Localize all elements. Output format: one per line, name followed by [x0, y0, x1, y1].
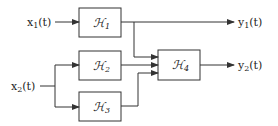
output-label-y1: y1(t) — [237, 16, 262, 30]
arrow-h1-to-h4 — [134, 22, 158, 57]
block-h1: ℋ1 — [79, 8, 121, 37]
block-h4: ℋ4 — [158, 50, 200, 80]
arrow-h3-to-h4 — [121, 73, 158, 106]
output-label-y2: y2(t) — [237, 59, 262, 73]
block-diagram: x1(t) x2(t) ℋ1 ℋ2 ℋ3 ℋ4 y1(t) y — [0, 0, 278, 126]
input-label-x2: x2(t) — [11, 80, 35, 94]
block-h3: ℋ3 — [79, 92, 121, 121]
input-label-x1: x1(t) — [27, 16, 51, 30]
block-h2: ℋ2 — [79, 51, 121, 80]
